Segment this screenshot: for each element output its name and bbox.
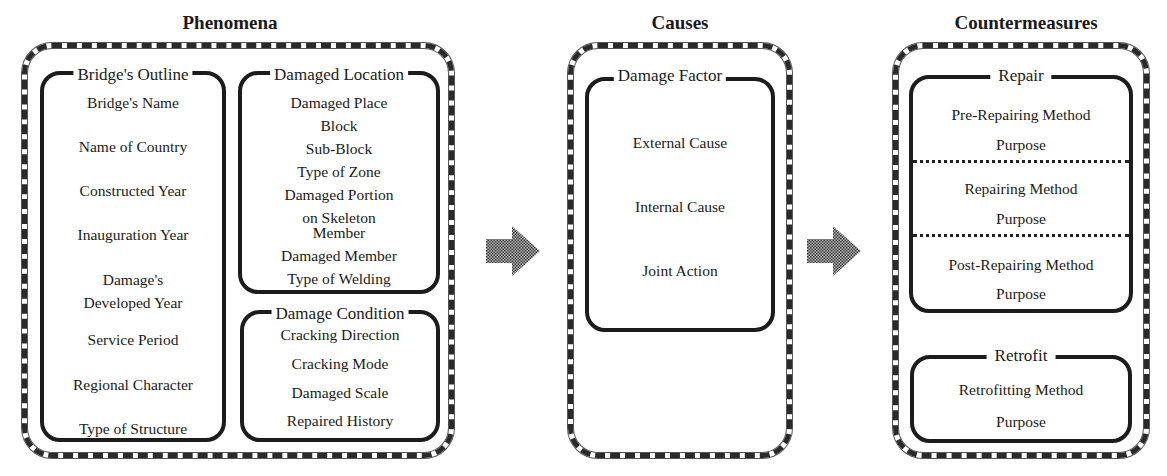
group-damaged-location: Damaged Place Block Sub-Block Type of Zo… (238, 71, 440, 294)
divider (913, 234, 1129, 237)
list-item: Cracking Direction (244, 326, 436, 344)
list-item: Damaged Scale (244, 384, 436, 402)
list-item: Type of Welding (242, 270, 436, 288)
list-item: Regional Character (44, 376, 222, 394)
list-item: Damaged Place (242, 94, 436, 112)
list-item: Block (242, 117, 436, 135)
list-item: Damaged Portion (242, 186, 436, 204)
list-item: Pre-Repairing Method (913, 106, 1129, 124)
list-item: Post-Repairing Method (913, 256, 1129, 274)
list-item: Internal Cause (589, 198, 771, 216)
countermeasures-title: Countermeasures (926, 12, 1126, 34)
arrow-right-icon (486, 226, 540, 276)
list-item: Repaired History (244, 412, 436, 430)
list-item: Repairing Method (913, 180, 1129, 198)
list-item: Bridge's Name (44, 94, 222, 112)
group-repair: Pre-Repairing Method Purpose Repairing M… (909, 75, 1133, 313)
list-item: Purpose (913, 210, 1129, 228)
list-item: Cracking Mode (244, 355, 436, 373)
list-item: Type of Structure (44, 420, 222, 438)
list-item: Purpose (913, 285, 1129, 303)
list-item: Inauguration Year (44, 226, 222, 244)
list-item: Member (242, 224, 436, 242)
list-item: Retrofitting Method (914, 381, 1128, 399)
divider (913, 160, 1129, 163)
list-item: Developed Year (44, 294, 222, 312)
group-label-retrofit: Retrofit (987, 346, 1056, 366)
list-item: Name of Country (44, 138, 222, 156)
group-label-damage-factor: Damage Factor (614, 66, 726, 86)
list-item: Type of Zone (242, 163, 436, 181)
causes-title: Causes (620, 12, 740, 34)
list-item: Purpose (914, 413, 1128, 431)
list-item: Purpose (913, 136, 1129, 154)
list-item: Joint Action (589, 262, 771, 280)
arrow-right-icon (807, 226, 861, 276)
list-item: Service Period (44, 331, 222, 349)
group-retrofit: Retrofitting Method Purpose (910, 355, 1132, 443)
group-damage-condition: Cracking Direction Cracking Mode Damaged… (240, 310, 440, 442)
group-damage-factor: External Cause Internal Cause Joint Acti… (585, 77, 775, 332)
group-label-damaged-location: Damaged Location (270, 65, 408, 85)
group-bridges-outline: Bridge's Name Name of Country Constructe… (40, 71, 226, 442)
list-item: External Cause (589, 134, 771, 152)
list-item: Damage's (44, 271, 222, 289)
list-item: Constructed Year (44, 182, 222, 200)
list-item: Damaged Member (242, 247, 436, 265)
group-label-repair: Repair (990, 66, 1051, 86)
group-label-bridges-outline: Bridge's Outline (73, 65, 192, 85)
group-label-damage-condition: Damage Condition (272, 304, 409, 324)
list-item: Sub-Block (242, 140, 436, 158)
phenomena-title: Phenomena (150, 12, 310, 34)
